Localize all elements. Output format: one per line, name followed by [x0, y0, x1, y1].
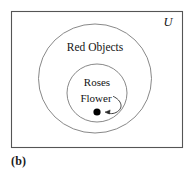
element-point: [93, 108, 100, 115]
venn-diagram-figure: U Red Objects Roses Flower (b): [0, 0, 196, 174]
universal-set-label: U: [163, 15, 173, 29]
outer-set-label: Red Objects: [67, 41, 124, 54]
venn-diagram-canvas: U Red Objects Roses Flower: [0, 0, 196, 174]
figure-caption: (b): [11, 154, 26, 169]
inner-set-label: Roses: [84, 76, 110, 88]
element-label: Flower: [80, 92, 112, 104]
